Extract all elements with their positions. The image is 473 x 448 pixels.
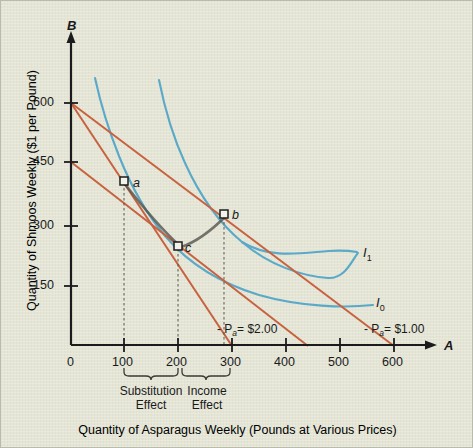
- tangent-segment-a-c: [121, 179, 181, 247]
- point-label-b: b: [232, 209, 239, 222]
- x-tick-500: 500: [328, 356, 349, 369]
- price-label-2-prefix: - P: [217, 322, 232, 336]
- x-tick-400: 400: [274, 356, 295, 369]
- chart-plot: [1, 1, 473, 448]
- x-tick-0: 0: [67, 356, 74, 369]
- income-effect-line1: Income: [175, 384, 239, 398]
- x-axis-arrow-icon: [425, 341, 437, 350]
- x-axis-title: Quantity of Asparagus Weekly (Pounds at …: [1, 423, 473, 437]
- x-tick-600: 600: [382, 356, 403, 369]
- data-point-b: [220, 210, 228, 218]
- curve-label-i0-sub: 0: [380, 303, 385, 313]
- point-label-a: a: [133, 177, 140, 190]
- price-label-1: - Pa= $1.00: [364, 323, 424, 338]
- point-label-c: c: [185, 242, 191, 255]
- x-axis-letter: A: [444, 339, 453, 352]
- income-effect-line2: Effect: [175, 398, 239, 412]
- price-label-2-rest: = $2.00: [237, 322, 277, 336]
- income-effect-brace: [182, 368, 230, 380]
- price-label-1-rest: = $1.00: [384, 322, 424, 336]
- income-effect-label: Income Effect: [175, 384, 239, 412]
- curve-label-i1: I1: [363, 246, 372, 263]
- y-axis-title: Quantity of Shmoos Weekly ($1 per Pound): [25, 70, 39, 311]
- x-tick-100: 100: [112, 356, 133, 369]
- indifference-curve-i0: [95, 78, 373, 306]
- price-label-1-prefix: - P: [364, 322, 379, 336]
- data-point-c: [174, 242, 182, 250]
- x-tick-200: 200: [166, 356, 187, 369]
- data-point-a: [120, 177, 128, 185]
- y-axis-letter: B: [67, 19, 76, 32]
- substitution-effect-brace: [124, 368, 178, 380]
- curve-label-i1-sub: 1: [367, 253, 372, 263]
- price-label-2: - Pa= $2.00: [217, 323, 277, 338]
- x-tick-300: 300: [220, 356, 241, 369]
- figure-panel: B A 150 300 450 600 0 100 200 300 400 50…: [0, 0, 473, 448]
- curve-label-i0: I0: [376, 296, 385, 313]
- budget-line-pa-1: [71, 103, 394, 346]
